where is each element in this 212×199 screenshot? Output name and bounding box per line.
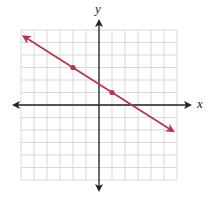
x-axis-label: x <box>197 97 203 110</box>
data-point <box>109 90 114 95</box>
data-point <box>70 65 75 70</box>
coordinate-plane <box>0 0 212 199</box>
y-axis-label: y <box>95 2 101 15</box>
